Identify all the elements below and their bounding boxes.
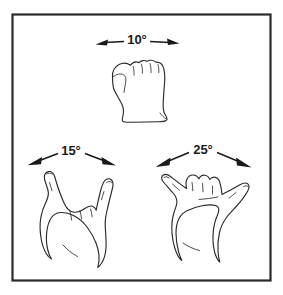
angle-label-25: 25°: [193, 142, 213, 157]
angle-label-10: 10°: [127, 32, 147, 47]
figure-root: 10° 15°: [0, 0, 283, 295]
hand-angle-diagram: 10° 15°: [0, 0, 283, 295]
diagram-border: [13, 15, 271, 281]
shaka-knuckle-2: [203, 184, 204, 192]
angle-label-15: 15°: [61, 143, 81, 158]
arrow-shaft-right-10: [150, 42, 170, 43]
